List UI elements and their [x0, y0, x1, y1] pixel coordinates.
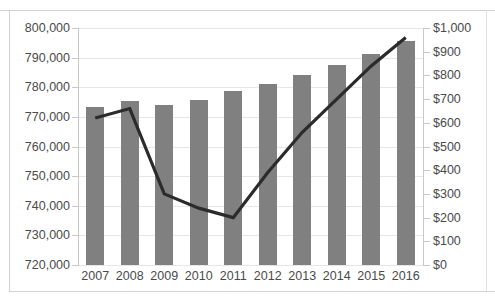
left-axis-tick: [72, 265, 78, 266]
right-axis-tick: [424, 170, 430, 171]
right-axis-tick: [424, 52, 430, 53]
x-axis-tick-label-2015: 2015: [354, 268, 389, 284]
right-axis-tick-label: $900: [433, 46, 461, 58]
right-axis-tick-label: $1,000: [433, 22, 471, 34]
right-axis-tick-label: $0: [433, 259, 447, 271]
right-axis-tick-label: $600: [433, 117, 461, 129]
right-axis-tick-label: $500: [433, 141, 461, 153]
bar-2009: [155, 105, 173, 265]
x-axis-tick-label-2014: 2014: [320, 268, 355, 284]
right-axis-labels: $1,000$900$800$700$600$500$400$300$200$1…: [433, 0, 495, 301]
x-axis-tick-label-2009: 2009: [147, 268, 182, 284]
left-axis-tick-label: 720,000: [25, 259, 70, 271]
right-axis-tick: [424, 99, 430, 100]
x-axis-tick-label-2008: 2008: [113, 268, 148, 284]
right-axis-tick-label: $300: [433, 188, 461, 200]
left-axis-tick: [72, 117, 78, 118]
bar-2015: [362, 54, 380, 265]
left-axis-tick-label: 780,000: [25, 81, 70, 93]
x-axis-labels: 2007200820092010201120122013201420152016: [78, 268, 423, 290]
left-axis-tick: [72, 235, 78, 236]
bar-2007: [86, 107, 104, 265]
right-axis-tick-label: $800: [433, 69, 461, 81]
left-axis-tick: [72, 176, 78, 177]
x-axis-tick-label-2011: 2011: [216, 268, 251, 284]
bar-2013: [293, 75, 311, 265]
x-axis-tick-label-2013: 2013: [285, 268, 320, 284]
left-axis-tick: [72, 28, 78, 29]
left-axis-tick: [72, 206, 78, 207]
right-axis-tick: [424, 28, 430, 29]
left-axis-tick: [72, 58, 78, 59]
right-axis-tick-label: $200: [433, 212, 461, 224]
left-axis-tick: [72, 87, 78, 88]
left-axis-tick-label: 790,000: [25, 52, 70, 64]
bar-2012: [259, 84, 277, 265]
left-axis-tick-label: 730,000: [25, 229, 70, 241]
frame-bottom-border: [9, 291, 495, 292]
right-axis-tick: [424, 123, 430, 124]
x-axis-tick-label-2012: 2012: [251, 268, 286, 284]
right-axis-tick-label: $100: [433, 235, 461, 247]
x-axis-tick-label-2010: 2010: [182, 268, 217, 284]
right-axis-tick: [424, 75, 430, 76]
bar-2016: [397, 41, 415, 265]
left-axis-tick: [72, 147, 78, 148]
bar-2008: [121, 101, 139, 265]
left-axis-tick-label: 770,000: [25, 111, 70, 123]
bar-series: [78, 28, 423, 266]
right-axis-tick: [424, 194, 430, 195]
right-axis-tick: [424, 241, 430, 242]
bar-2010: [190, 100, 208, 265]
right-axis-tick-label: $700: [433, 93, 461, 105]
left-axis-labels: 800,000790,000780,000770,000760,000750,0…: [0, 0, 70, 301]
right-axis-tick: [424, 265, 430, 266]
bar-2011: [224, 91, 242, 265]
chart-container: 800,000790,000780,000770,000760,000750,0…: [0, 0, 495, 301]
right-axis-tick: [424, 218, 430, 219]
x-axis-tick-label-2016: 2016: [389, 268, 424, 284]
frame-top-border: [0, 10, 495, 11]
left-axis-tick-label: 740,000: [25, 200, 70, 212]
right-axis-tick-label: $400: [433, 164, 461, 176]
bar-2014: [328, 65, 346, 265]
x-axis-tick-label-2007: 2007: [78, 268, 113, 284]
right-axis-tick: [424, 147, 430, 148]
left-axis-tick-label: 800,000: [25, 22, 70, 34]
left-axis-tick-label: 750,000: [25, 170, 70, 182]
left-axis-tick-label: 760,000: [25, 141, 70, 153]
